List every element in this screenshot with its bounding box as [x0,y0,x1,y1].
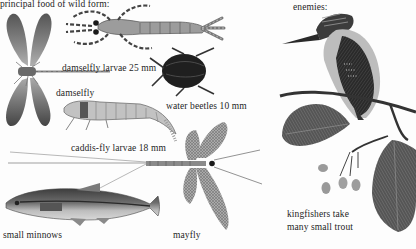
illustration-artwork [0,0,416,249]
water-beetle-illustration [150,48,214,96]
minnow-illustration [6,183,160,226]
small-minnows-caption: small minnows [3,230,62,241]
water-beetles-caption: water beetles 10 mm [166,101,247,112]
enemies-heading: enemies: [293,2,328,13]
damselfly-larva-illustration [66,6,224,49]
kingfishers-caption-line2: many small trout [287,222,353,233]
mayfly-caption: mayfly [173,230,201,241]
caddis-fly-larvae-caption: caddis-fly larvae 18 mm [71,143,166,154]
caddis-larva-illustration [64,101,176,142]
kingfisher-illustration [282,14,380,120]
food-heading: principal food of wild form: [0,0,109,10]
kingfishers-caption-line1: kingfishers take [287,209,349,220]
damselfly-caption: damselfly [56,88,94,99]
damselfly-larvae-caption: damselfly larvae 25 mm [62,63,156,74]
illustration-plate: principal food of wild form: enemies: da… [0,0,416,249]
